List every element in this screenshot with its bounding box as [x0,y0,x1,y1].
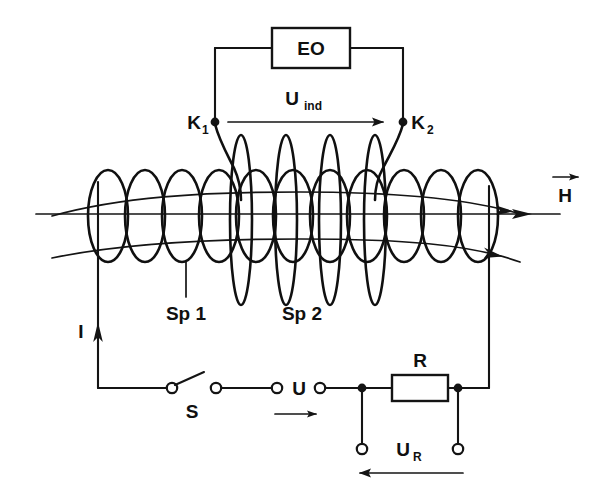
switch-assembly[interactable] [167,372,221,393]
sp2-turn [275,135,297,305]
secondary-coil-sp2 [230,135,386,305]
switch-terminal-right[interactable] [211,383,221,393]
resistor-label: R [413,350,427,371]
sp2-turn [364,135,386,305]
measure-terminal-right[interactable] [453,444,463,454]
field-strength-label: H [558,185,572,206]
sp1-turn [199,170,239,262]
induction-diagram-figure: EO U ind K 1 K 2 [0,0,597,486]
resistor-voltage-label: U [396,439,410,460]
terminal-k1-label: K [187,112,201,133]
sp1-turn [421,170,461,262]
current-label: I [78,321,83,342]
resistor-body[interactable] [392,375,448,401]
sp2-turn [319,135,341,305]
primary-coil-label: Sp 1 [166,303,207,324]
diagram-canvas: EO U ind K 1 K 2 [0,0,597,486]
switch-label: S [186,401,199,422]
sp1-turn [310,170,350,262]
switch-blade[interactable] [175,372,204,385]
sp1-turn [236,170,276,262]
terminal-k2-label: K [411,112,425,133]
sp1-turn [347,170,387,262]
field-strength-annotation: H [553,177,578,206]
u-ind-label: U [285,88,299,109]
secondary-coil-label: Sp 2 [282,303,322,324]
sp1-turn [384,170,424,262]
resistor-assembly [357,375,463,454]
supply-terminal-right[interactable] [315,383,325,393]
supply-voltage-label: U [292,378,306,399]
sp1-turn [125,170,165,262]
sp2-turn [230,135,252,305]
terminal-k1-subscript: 1 [202,123,209,137]
field-line-upper [52,192,520,216]
resistor-voltage-subscript: R [413,450,422,464]
terminal-k2-subscript: 2 [427,123,434,137]
primary-coil-sp1 [88,170,498,262]
sp1-turn [273,170,313,262]
k1-coil-lead [215,124,241,200]
oscilloscope-label: EO [297,38,324,59]
sp1-turn [162,170,202,262]
measure-terminal-left[interactable] [357,444,367,454]
sp1-turn [458,170,498,262]
u-ind-subscript: ind [304,99,322,113]
supply-terminal-left[interactable] [272,383,282,393]
